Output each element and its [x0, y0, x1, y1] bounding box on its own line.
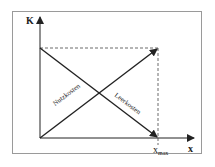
x-axis-label: x — [188, 144, 193, 154]
xmax-label: xmax — [153, 145, 168, 156]
nutzkosten-line — [40, 49, 157, 138]
leerkosten-line — [40, 48, 157, 137]
y-axis-label: K — [26, 16, 34, 26]
xmax-subscript: max — [158, 150, 168, 156]
